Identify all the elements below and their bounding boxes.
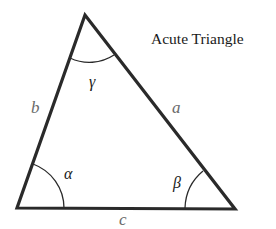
side-label-b: b xyxy=(31,99,40,116)
angle-label-gamma: γ xyxy=(89,74,95,90)
alpha-angle-arc xyxy=(33,164,64,208)
gamma-angle-arc xyxy=(70,55,114,62)
beta-angle-arc xyxy=(185,171,203,208)
angle-label-beta: β xyxy=(173,175,181,191)
angle-label-alpha: α xyxy=(64,166,72,182)
diagram-title: Acute Triangle xyxy=(151,30,244,48)
side-label-c: c xyxy=(119,211,127,228)
side-label-a: a xyxy=(172,99,181,116)
